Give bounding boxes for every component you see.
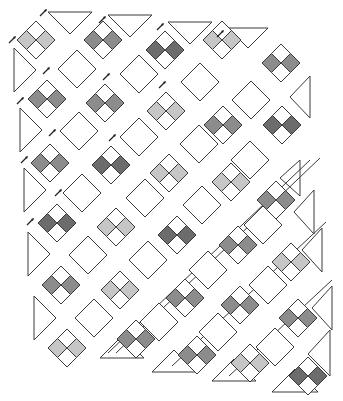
setting-triangle: [312, 286, 332, 330]
four-patch-block: [262, 44, 300, 82]
four-patch-block: [158, 216, 196, 254]
four-patch-block: [263, 106, 301, 144]
four-patch-block: [92, 146, 130, 184]
setting-triangle: [294, 190, 314, 234]
plain-block: [69, 236, 107, 274]
four-patch-block: [221, 286, 259, 324]
plain-block: [75, 299, 113, 337]
direction-arrow-icon: [17, 97, 24, 104]
four-patch-block: [101, 271, 139, 309]
plain-block: [120, 55, 158, 93]
four-patch-block: [150, 154, 188, 192]
four-patch-block: [42, 266, 80, 304]
direction-arrow-icon: [27, 218, 34, 225]
four-patch-block: [147, 92, 185, 130]
direction-arrow-icon: [103, 73, 110, 80]
four-patch-block: [203, 21, 241, 59]
four-patch-block: [146, 31, 184, 69]
plain-block: [129, 241, 167, 279]
four-patch-block: [86, 84, 124, 122]
setting-triangle: [28, 232, 50, 276]
four-patch-block: [84, 21, 122, 59]
plain-block: [120, 118, 158, 156]
plain-block: [232, 81, 270, 119]
plain-block: [63, 174, 101, 212]
direction-arrow-icon: [49, 129, 56, 136]
plain-block: [126, 179, 164, 217]
direction-arrow-icon: [157, 23, 164, 30]
four-patch-block: [31, 144, 69, 182]
direction-arrow-icon: [55, 189, 62, 196]
four-patch-block: [166, 279, 204, 317]
plain-block: [181, 63, 219, 101]
plain-block: [58, 50, 96, 88]
direction-arrow-icon: [43, 67, 50, 74]
direction-arrow-icon: [109, 134, 116, 141]
setting-triangle: [20, 108, 42, 152]
plain-block: [183, 186, 221, 224]
direction-arrow-icon: [159, 81, 166, 88]
four-patch-block: [38, 204, 76, 242]
direction-arrow-icon: [40, 9, 47, 16]
direction-arrow-icon: [21, 156, 28, 163]
setting-triangle: [290, 76, 310, 118]
four-patch-block: [17, 21, 55, 59]
plain-block: [189, 251, 227, 289]
setting-triangle: [48, 12, 92, 34]
direction-arrow-icon: [9, 36, 16, 43]
setting-triangle: [34, 296, 56, 340]
four-patch-block: [28, 80, 66, 118]
four-patch-block: [48, 329, 86, 367]
quilt-layout-diagram: [0, 0, 343, 401]
four-patch-block: [279, 299, 317, 337]
four-patch-block: [97, 208, 135, 246]
plain-block: [60, 112, 98, 150]
